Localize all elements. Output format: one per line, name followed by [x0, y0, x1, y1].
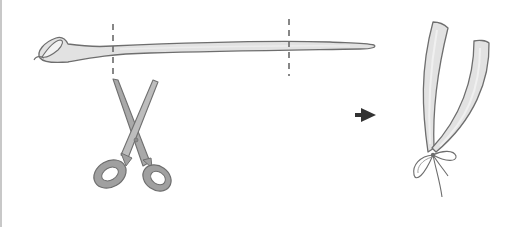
- scissors-handle-left: [89, 153, 132, 194]
- two-strips: [423, 22, 489, 152]
- bow-icon: [414, 151, 456, 197]
- illustration-stage: [0, 0, 526, 227]
- right-arrow-icon: [355, 108, 376, 122]
- scissors-icon: [89, 79, 176, 196]
- long-tube: [34, 37, 375, 62]
